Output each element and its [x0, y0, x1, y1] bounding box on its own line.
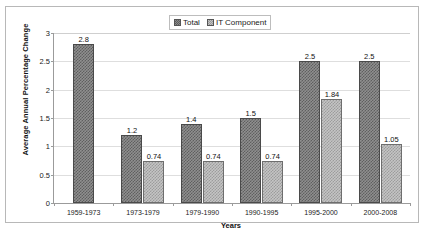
- legend-swatch-total-icon: [174, 19, 181, 26]
- x-tick-label: 1995-2000: [304, 209, 337, 216]
- legend-entry-it-component: IT Component: [207, 19, 267, 27]
- bar-value-label: 2.5: [305, 52, 315, 61]
- bar-value-label: 0.74: [147, 152, 162, 161]
- bar-total[interactable]: 1.2: [121, 135, 142, 203]
- x-tick-label: 1979-1990: [186, 209, 219, 216]
- x-tick-label: 1959-1973: [67, 209, 100, 216]
- bar-total[interactable]: 2.5: [299, 61, 320, 203]
- y-tick-label: 3: [46, 29, 50, 38]
- bars-layer: 2.81.20.741.40.741.50.742.51.842.51.05: [54, 33, 410, 203]
- x-tick-mark: [173, 203, 174, 206]
- x-tick-mark: [54, 203, 55, 206]
- plot-area: 00.511.522.53 2.81.20.741.40.741.50.742.…: [53, 33, 410, 204]
- x-axis-title: Years: [53, 221, 409, 230]
- y-tick-label: 1: [46, 142, 50, 151]
- bar-group: 1.20.74: [113, 33, 172, 203]
- bar-group: 1.50.74: [232, 33, 291, 203]
- bar-value-label: 0.74: [265, 152, 280, 161]
- x-tick-mark: [232, 203, 233, 206]
- bar-value-label: 0.74: [206, 152, 221, 161]
- x-tick-mark: [351, 203, 352, 206]
- chart-legend: Total IT Component: [169, 15, 271, 30]
- bar-value-label: 1.84: [325, 90, 340, 99]
- y-tick-label: 2: [46, 85, 50, 94]
- bar-group: 1.40.74: [173, 33, 232, 203]
- x-tick-mark: [291, 203, 292, 206]
- legend-entry-total: Total: [174, 19, 200, 27]
- y-axis-title: Average Annual Percentage Change: [21, 15, 30, 165]
- bar-group: 2.8: [54, 33, 113, 203]
- bar-value-label: 1.4: [186, 115, 196, 124]
- bar-value-label: 2.5: [364, 52, 374, 61]
- y-tick-label: 0.5: [40, 170, 50, 179]
- chart-frame: Total IT Component Average Annual Percen…: [5, 6, 419, 223]
- bar-total[interactable]: 1.4: [181, 124, 202, 203]
- legend-swatch-it-component-icon: [207, 19, 214, 26]
- bar-it-component[interactable]: 0.74: [143, 161, 164, 203]
- bar-value-label: 2.8: [78, 35, 88, 44]
- bar-group: 2.51.84: [291, 33, 350, 203]
- x-tick-label: 2000-2008: [364, 209, 397, 216]
- legend-label-total: Total: [183, 19, 200, 27]
- x-tick-mark: [410, 203, 411, 206]
- y-tick-label: 1.5: [40, 114, 50, 123]
- bar-it-component[interactable]: 0.74: [262, 161, 283, 203]
- y-tick-label: 0: [46, 199, 50, 208]
- x-tick-label: 1990-1995: [245, 209, 278, 216]
- bar-total[interactable]: 2.8: [73, 44, 94, 203]
- y-tick-label: 2.5: [40, 57, 50, 66]
- bar-total[interactable]: 2.5: [359, 61, 380, 203]
- legend-label-it-component: IT Component: [216, 19, 267, 27]
- bar-value-label: 1.5: [245, 109, 255, 118]
- bar-total[interactable]: 1.5: [240, 118, 261, 203]
- bar-it-component[interactable]: 1.84: [321, 99, 342, 203]
- bar-value-label: 1.2: [127, 126, 137, 135]
- x-tick-mark: [113, 203, 114, 206]
- bar-value-label: 1.05: [384, 135, 399, 144]
- bar-it-component[interactable]: 0.74: [203, 161, 224, 203]
- bar-group: 2.51.05: [351, 33, 410, 203]
- bar-it-component[interactable]: 1.05: [381, 144, 402, 204]
- x-tick-label: 1973-1979: [126, 209, 159, 216]
